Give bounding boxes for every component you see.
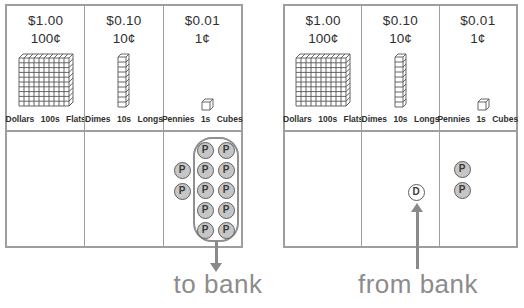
column-cents: 100¢ xyxy=(31,31,61,46)
column-cents: 100¢ xyxy=(308,31,338,46)
column-amount: $1.00 xyxy=(306,13,341,28)
penny-coin: P xyxy=(197,182,214,199)
block-area xyxy=(164,46,241,114)
work-cell-dollars xyxy=(285,132,361,246)
penny-coin: P xyxy=(197,142,214,159)
ten-long-icon xyxy=(116,51,131,109)
column-cents: 10¢ xyxy=(389,31,412,46)
to-bank-arrow xyxy=(215,242,218,264)
dime-coin: D xyxy=(408,184,425,201)
column-cents: 1¢ xyxy=(470,31,485,46)
hundred-flat-icon xyxy=(17,52,75,108)
from-bank-arrow xyxy=(416,212,419,269)
to-bank-label: to bank xyxy=(166,269,270,300)
chart-header-row: $1.00 100¢ Dollars 100s Flats $0.10 10¢ xyxy=(7,6,241,132)
penny-coin: P xyxy=(197,202,214,219)
column-dollars: $1.00 100¢ Dollars 100s Flats xyxy=(285,6,361,130)
column-dimes: $0.10 10¢ Dimes 10s Longs xyxy=(84,6,162,130)
penny-coin: P xyxy=(454,182,471,199)
penny-coin: P xyxy=(174,183,191,200)
column-label: Pennies 1s Cubes xyxy=(437,114,518,124)
column-label: Dollars 100s Flats xyxy=(283,114,363,124)
penny-coin: P xyxy=(197,222,214,239)
one-cube-icon xyxy=(200,98,214,111)
work-cell-dimes xyxy=(361,132,438,246)
chart-header-row: $1.00 100¢ Dollars 100s Flats $0.10 10¢ xyxy=(285,6,516,132)
block-area xyxy=(440,46,516,114)
penny-coin: P xyxy=(218,162,235,179)
from-bank-arrowhead-icon xyxy=(411,203,423,212)
from-bank-label: from bank xyxy=(353,269,483,300)
column-amount: $0.01 xyxy=(185,13,220,28)
column-amount: $0.10 xyxy=(106,13,141,28)
work-cell-dollars xyxy=(7,132,84,246)
column-pennies: $0.01 1¢ Pennies 1s Cubes xyxy=(163,6,241,130)
penny-coin: P xyxy=(218,222,235,239)
block-area xyxy=(362,46,438,114)
column-amount: $0.10 xyxy=(383,13,418,28)
column-cents: 1¢ xyxy=(195,31,210,46)
block-area xyxy=(85,46,162,114)
work-cell-dimes xyxy=(84,132,162,246)
chart-work-row xyxy=(285,132,516,246)
work-cell-pennies xyxy=(439,132,516,246)
column-pennies: $0.01 1¢ Pennies 1s Cubes xyxy=(439,6,516,130)
column-dimes: $0.10 10¢ Dimes 10s Longs xyxy=(361,6,438,130)
column-label: Pennies 1s Cubes xyxy=(162,114,243,124)
place-value-chart-right: $1.00 100¢ Dollars 100s Flats $0.10 10¢ xyxy=(283,4,518,248)
column-amount: $1.00 xyxy=(28,13,63,28)
penny-coin: P xyxy=(218,182,235,199)
one-cube-icon xyxy=(476,98,490,111)
penny-coin: P xyxy=(218,142,235,159)
block-area xyxy=(7,46,84,114)
column-amount: $0.01 xyxy=(460,13,495,28)
ten-long-icon xyxy=(393,51,408,109)
penny-coin: P xyxy=(218,202,235,219)
penny-coin: P xyxy=(454,161,471,178)
column-dollars: $1.00 100¢ Dollars 100s Flats xyxy=(7,6,84,130)
column-label: Dimes 10s Longs xyxy=(85,114,163,124)
penny-coin: P xyxy=(174,162,191,179)
column-label: Dimes 10s Longs xyxy=(362,114,440,124)
column-cents: 10¢ xyxy=(113,31,136,46)
hundred-flat-icon xyxy=(294,52,352,108)
block-area xyxy=(285,46,361,114)
penny-coin: P xyxy=(197,162,214,179)
column-label: Dollars 100s Flats xyxy=(6,114,86,124)
worksheet-diagram: $1.00 100¢ Dollars 100s Flats $0.10 10¢ xyxy=(0,0,524,308)
